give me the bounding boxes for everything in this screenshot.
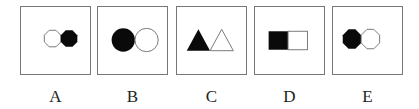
- octagon-pair-icon: [21, 7, 90, 74]
- octagon-pair-icon: [333, 7, 402, 74]
- option-a-label: A: [20, 87, 91, 107]
- option-c-label: C: [176, 87, 247, 107]
- option-a-box[interactable]: [20, 6, 91, 75]
- option-e-box[interactable]: [332, 6, 403, 75]
- option-b-box[interactable]: [97, 6, 168, 75]
- square-pair-icon: [255, 7, 324, 74]
- option-b-label: B: [97, 87, 168, 107]
- option-d-label: D: [254, 87, 325, 107]
- option-d-box[interactable]: [254, 6, 325, 75]
- triangle-pair-icon: [177, 7, 246, 74]
- option-c-box[interactable]: [176, 6, 247, 75]
- option-e-label: E: [332, 87, 403, 107]
- circle-pair-icon: [98, 7, 167, 74]
